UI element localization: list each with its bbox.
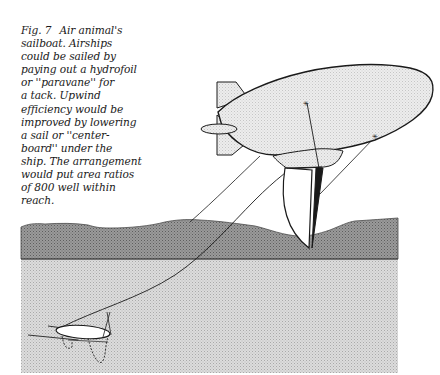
tail-stabilizer	[201, 124, 237, 134]
land-band	[21, 218, 398, 259]
figure-label: Fig. 7	[21, 24, 51, 36]
caption-line-10: board'' under the	[21, 142, 141, 155]
figure-caption: Fig. 7Air animal's sailboat. Airships co…	[21, 24, 141, 207]
caption-line-5: or ''paravane'' for	[21, 76, 141, 89]
tow-line-secondary	[190, 156, 260, 222]
caption-line-13: of 800 well within	[21, 181, 141, 194]
caption-line-1: Fig. 7Air animal's	[21, 24, 141, 37]
figure-7: ✳ ✳ Fig. 7Air animal's sailboat. Airship…	[0, 0, 440, 375]
caption-line-7: efficiency would be	[21, 103, 141, 116]
caption-line-4: paying out a hydrofoil	[21, 63, 141, 76]
caption-line-14: reach.	[21, 194, 141, 207]
sea-area	[21, 259, 398, 373]
caption-line-12: would put area ratios	[21, 168, 141, 181]
caption-line-6: a tack. Upwind	[21, 89, 141, 102]
caption-line-9: a sail or ''center-	[21, 129, 141, 142]
caption-line-3: could be sailed by	[21, 50, 141, 63]
nose-attachment-mark: ✳	[372, 133, 378, 141]
airship-envelope	[218, 65, 433, 155]
caption-line-8: improved by lowering	[21, 116, 141, 129]
mast-attachment-mark: ✳	[303, 100, 309, 108]
caption-line-11: ship. The arrangement	[21, 155, 141, 168]
caption-line-2: sailboat. Airships	[21, 37, 141, 50]
